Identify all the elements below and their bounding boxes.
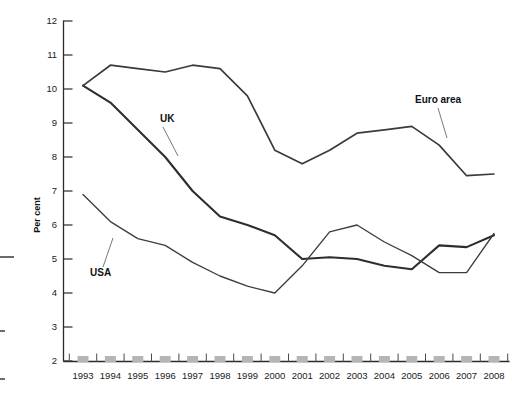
series-annotations: UKUSAEuro area bbox=[90, 94, 462, 278]
x-tick-label: 1994 bbox=[100, 370, 121, 381]
series-label-euro-area: Euro area bbox=[415, 94, 462, 105]
y-axis-title: Per cent bbox=[32, 197, 42, 233]
y-tick-label: 6 bbox=[52, 219, 57, 230]
x-tick-label: 2000 bbox=[264, 370, 285, 381]
x-tick-label: 2001 bbox=[292, 370, 313, 381]
line-chart: 23456789101112 1993199419951996199719981… bbox=[0, 0, 531, 396]
x-tick-block bbox=[132, 356, 143, 362]
x-tick-label: 1998 bbox=[209, 370, 230, 381]
y-tick-label: 5 bbox=[52, 253, 57, 264]
x-tick-label: 2005 bbox=[401, 370, 422, 381]
x-tick-label: 2006 bbox=[429, 370, 450, 381]
series-line-uk bbox=[83, 86, 494, 270]
y-tick-label: 12 bbox=[46, 15, 57, 26]
series-line-usa bbox=[83, 194, 494, 293]
y-tick-label: 10 bbox=[46, 83, 57, 94]
x-tick-label: 1999 bbox=[237, 370, 258, 381]
x-tick-label: 2003 bbox=[346, 370, 367, 381]
page-edge-mark-left-mid bbox=[0, 256, 14, 258]
y-axis-ticks: 23456789101112 bbox=[46, 15, 72, 366]
series-line-euro-area bbox=[83, 65, 494, 176]
annotation-leader-line bbox=[438, 108, 447, 138]
x-tick-block bbox=[269, 356, 280, 362]
x-tick-block bbox=[160, 356, 171, 362]
x-axis-ticks: 1993199419951996199719981999200020012002… bbox=[69, 354, 507, 382]
y-tick-label: 3 bbox=[52, 321, 57, 332]
x-tick-block bbox=[105, 356, 116, 362]
y-tick-label: 4 bbox=[52, 287, 57, 298]
axes bbox=[64, 21, 510, 362]
x-tick-block bbox=[187, 356, 198, 362]
x-tick-label: 2002 bbox=[319, 370, 340, 381]
x-tick-label: 1996 bbox=[155, 370, 176, 381]
x-tick-block bbox=[489, 356, 500, 362]
series-label-usa: USA bbox=[90, 267, 111, 278]
x-tick-block bbox=[434, 356, 445, 362]
x-tick-label: 2007 bbox=[456, 370, 477, 381]
x-tick-label: 1995 bbox=[127, 370, 148, 381]
x-tick-block bbox=[324, 356, 335, 362]
y-tick-label: 7 bbox=[52, 185, 57, 196]
page-edge-mark-left-lower bbox=[0, 330, 5, 332]
x-tick-block bbox=[406, 356, 417, 362]
x-tick-label: 2004 bbox=[374, 370, 395, 381]
x-tick-block bbox=[78, 356, 89, 362]
y-tick-label: 11 bbox=[47, 49, 57, 60]
x-tick-block bbox=[242, 356, 253, 362]
x-tick-label: 1997 bbox=[182, 370, 203, 381]
chart-container: 23456789101112 1993199419951996199719981… bbox=[0, 0, 531, 396]
y-tick-label: 2 bbox=[52, 355, 57, 366]
annotation-leader-line bbox=[163, 127, 178, 156]
annotation-leader-line bbox=[103, 238, 113, 267]
y-tick-label: 8 bbox=[52, 151, 57, 162]
x-tick-block bbox=[215, 356, 226, 362]
x-tick-block bbox=[297, 356, 308, 362]
page-edge-mark-left-bottom bbox=[0, 378, 5, 380]
x-tick-block bbox=[352, 356, 363, 362]
y-tick-label: 9 bbox=[52, 117, 57, 128]
x-tick-block bbox=[379, 356, 390, 362]
x-tick-label: 1993 bbox=[72, 370, 93, 381]
series-label-uk: UK bbox=[160, 113, 175, 124]
x-tick-label: 2008 bbox=[483, 370, 504, 381]
x-tick-block bbox=[461, 356, 472, 362]
